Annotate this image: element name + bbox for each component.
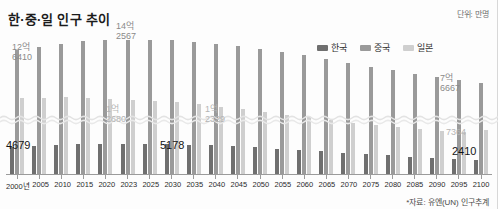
bar-group [382,34,404,175]
callout-value-small: 6410 [12,53,32,63]
bar-kr-2025 [143,144,147,175]
x-tick [94,175,116,179]
x-axis-label: 2065 [316,180,338,192]
bar-group [72,34,94,175]
bar-jp-2080 [396,127,400,175]
x-axis-label: 2090 [426,180,448,192]
bar-cn-2025 [148,40,152,175]
bar-cn-2030 [170,40,174,175]
bar-kr-2100 [474,160,478,175]
bar-jp-2005 [42,98,46,175]
bar-jp-2045 [241,109,245,175]
x-axis-label: 2050 [250,180,272,192]
bar-cn-2045 [236,46,240,175]
bar-cn-2085 [413,74,417,175]
callout-value-small: 2329 [205,115,225,125]
x-axis-label: 2005 [30,180,52,192]
callout-value-small: 7364 [446,128,466,138]
bar-kr-2070 [341,153,345,175]
x-tick [293,175,315,179]
bar-kr-2090 [430,158,434,175]
bar-group [293,34,315,175]
x-axis-label: 2015 [74,180,96,192]
bar-kr-2055 [275,149,279,176]
bar-jp-2075 [374,125,378,175]
callout-japan-2023: 1억 2329 [205,105,225,124]
page-title: 한·중·일 인구 추이 [8,9,110,28]
bar-kr-2010 [54,145,58,175]
x-axis-label: 2085 [404,180,426,192]
callout-korea-2023: 5178 [160,140,184,151]
x-tick [72,175,94,179]
bar-cn-2055 [280,52,284,175]
bar-cn-2075 [369,67,373,176]
x-tick [6,175,28,179]
bar-jp-2015 [86,98,90,175]
bar-group [404,34,426,175]
x-tick [382,175,404,179]
x-tick [183,175,205,179]
bar-kr-2080 [386,155,390,175]
bar-cn-2005 [37,47,41,175]
x-tick [448,175,470,179]
x-tick [116,175,138,179]
bar-cn-2080 [391,70,395,175]
x-axis-label: 2045 [228,180,250,192]
x-axis-label: 2100 [470,180,492,192]
bar-cn-2010 [59,44,63,175]
bar-kr-2020 [98,144,102,175]
bar-group [227,34,249,175]
bar-group [183,34,205,175]
x-axis-label: 2080 [382,180,404,192]
x-tick [470,175,492,179]
x-tick [315,175,337,179]
bar-group [50,34,72,175]
plot-area [6,34,492,175]
bar-kr-2075 [364,154,368,175]
bar-jp-2000 [20,98,24,175]
bar-cn-2000 [15,50,19,175]
x-tick [205,175,227,179]
bar-jp-2060 [307,117,311,175]
x-axis-label: 2030 [162,180,184,192]
bar-kr-2095 [452,159,456,175]
x-axis-labels: 2000년20052010201520202023202520302035204… [6,180,492,192]
bar-group [249,34,271,175]
bar-kr-2050 [253,147,257,175]
bar-jp-2100 [484,130,488,175]
bar-jp-2065 [329,120,333,175]
x-axis-ticks [6,175,492,179]
callout-china-2000: 12억 6410 [12,43,32,62]
x-tick [50,175,72,179]
x-tick [404,175,426,179]
x-axis-label: 2000년 [6,180,30,192]
callout-china-2100: 7억 6667 [440,74,460,93]
bar-groups [6,34,492,175]
source-note: *자료: 유엔(UN) 인구추계 [406,196,489,207]
callout-china-2023: 14억 2567 [116,22,136,41]
x-tick [28,175,50,179]
bar-kr-2023 [121,144,125,175]
bar-jp-2050 [263,112,267,175]
x-tick [227,175,249,179]
callout-japan-2100: 7364 [446,128,466,138]
x-axis-label: 2035 [184,180,206,192]
callout-value-small: 2567 [116,32,136,42]
bar-group [337,34,359,175]
bar-jp-2010 [64,97,68,175]
bar-cn-2070 [346,63,350,175]
callout-korea-2100: 2410 [452,146,476,157]
callout-korea-2000: 4679 [6,140,30,151]
bar-jp-2025 [153,101,157,175]
bar-cn-2015 [81,41,85,175]
x-axis-label: 2023 [118,180,140,192]
unit-note: 단위: 만명 [457,8,489,19]
x-axis-label: 2095 [448,180,470,192]
x-tick [271,175,293,179]
bar-cn-2050 [258,49,262,175]
bar-kr-2015 [76,144,80,175]
x-tick [426,175,448,179]
x-axis-label: 2010 [52,180,74,192]
bar-group [360,34,382,175]
callout-value-small: 6667 [440,84,460,94]
